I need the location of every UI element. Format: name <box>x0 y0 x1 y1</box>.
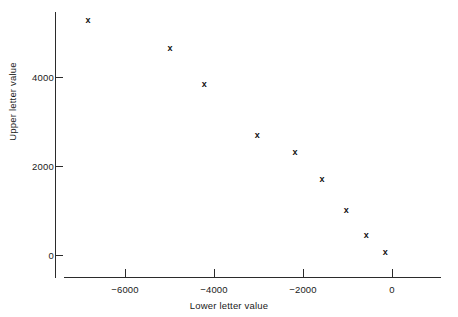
data-point: x <box>290 148 299 157</box>
y-axis-line <box>55 12 56 278</box>
data-point: x <box>253 130 262 139</box>
y-tick-label: 2000 <box>32 161 54 172</box>
x-tick <box>214 269 215 277</box>
data-point: x <box>165 44 174 53</box>
x-tick <box>303 269 304 277</box>
y-tick-label: 4000 <box>32 72 54 83</box>
x-axis-title: Lower letter value <box>0 300 458 311</box>
y-tick <box>56 77 63 78</box>
y-tick <box>56 255 63 256</box>
data-point: x <box>318 174 327 183</box>
y-tick <box>56 166 63 167</box>
data-point: x <box>84 16 93 25</box>
x-tick-label: 0 <box>389 284 394 295</box>
x-tick-label: −2000 <box>289 284 317 295</box>
y-tick-label: 0 <box>49 250 54 261</box>
scatter-plot-figure: 020004000 −6000−4000−20000 xxxxxxxxx Low… <box>0 0 458 317</box>
x-tick <box>125 269 126 277</box>
x-tick <box>392 269 393 277</box>
x-tick-label: −4000 <box>200 284 228 295</box>
x-tick-label: −6000 <box>111 284 139 295</box>
data-point: x <box>342 206 351 215</box>
data-point: x <box>362 230 371 239</box>
data-point: x <box>381 247 390 256</box>
y-axis-title: Upper letter value <box>7 42 18 162</box>
x-axis-line <box>64 277 441 278</box>
data-point: x <box>200 80 209 89</box>
plot-area: 020004000 −6000−4000−20000 xxxxxxxxx <box>0 0 458 317</box>
